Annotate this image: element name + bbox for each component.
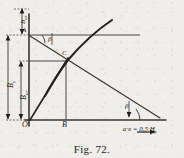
point-label-C: C	[62, 50, 67, 57]
dimension-label-top-text: B	[19, 20, 27, 24]
figure-caption: Fig. 72.	[0, 143, 184, 155]
figure-72: A C O B β β Bur By Bur a·x = 0,5·Hy Fig.…	[0, 0, 184, 158]
dimension-label-top-sub: ur	[23, 15, 28, 19]
dimension-label-outer-text: B	[6, 83, 15, 88]
x-axis-formula-label: a·x = 0,5·Hy	[123, 126, 157, 133]
angle-arc-beta-lower	[136, 109, 140, 120]
x-axis-formula-sub: y	[155, 129, 157, 134]
angle-label-beta-upper: β	[48, 36, 52, 43]
dimension-label-inner-sub: ur	[24, 91, 29, 95]
rising-curve-through-C	[45, 20, 112, 96]
angle-arc-beta-upper	[42, 35, 45, 43]
point-label-O: O	[22, 121, 28, 129]
point-label-A: A	[22, 27, 26, 34]
angle-label-beta-lower: β	[125, 103, 129, 110]
dimension-label-inner: Bur	[20, 91, 28, 100]
declining-line-A-through-C	[30, 36, 160, 118]
point-label-B: B	[62, 121, 67, 129]
dimension-label-inner-text: B	[19, 95, 28, 100]
figure-drawing-area	[0, 0, 184, 158]
dimension-label-outer-sub: y	[11, 81, 16, 83]
dimension-label-outer: By	[7, 81, 15, 88]
x-axis-formula-text: a·x = 0,5·H	[123, 125, 155, 133]
dimension-label-top: Bur	[20, 15, 27, 24]
